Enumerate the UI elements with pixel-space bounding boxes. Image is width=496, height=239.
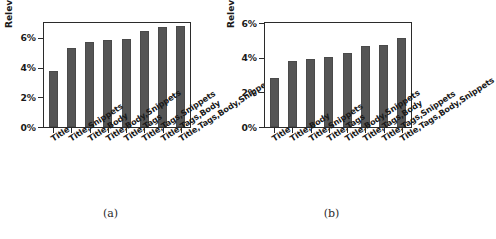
y-axis-tick: 0% (38, 127, 44, 128)
y-axis-tick-label: 4% (241, 52, 257, 64)
panel-caption-b: (b) (221, 207, 442, 220)
y-axis-tick: 2% (259, 92, 265, 93)
chart-panel-b: Relevant results retrieved TitleTitle,Bo… (221, 0, 442, 239)
panel-caption-a: (a) (0, 207, 221, 220)
y-axis-tick-label: 0% (241, 122, 257, 134)
y-axis-tick: 4% (38, 68, 44, 69)
y-axis-tick-label: 2% (20, 92, 36, 104)
y-axis-tick-label: 6% (241, 18, 257, 30)
y-axis-tick-label: 4% (20, 62, 36, 74)
y-axis-tick-label: 2% (241, 87, 257, 99)
chart-panel-a: Relevant results retrieved TitleTitle,Sn… (0, 0, 221, 239)
y-axis-tick: 4% (259, 58, 265, 59)
y-axis-tick-label: 6% (20, 32, 36, 44)
x-axis-labels-b: TitleTitle,BodyTitle,SnippetsTitle,TagsT… (221, 0, 442, 239)
y-axis-tick-label: 0% (20, 122, 36, 134)
y-axis-tick: 6% (38, 38, 44, 39)
y-axis-tick: 6% (259, 23, 265, 24)
y-axis-tick: 2% (38, 97, 44, 98)
y-axis-tick: 0% (259, 127, 265, 128)
